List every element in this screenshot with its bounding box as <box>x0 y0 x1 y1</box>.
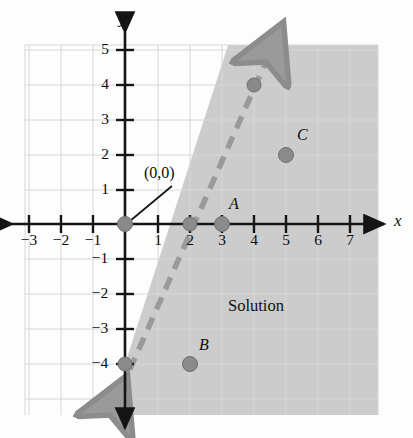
graph-figure: y x −3 −2 −1 1 2 3 4 5 6 7 5 4 3 2 1 −1 … <box>0 0 413 438</box>
x-tick-label-1: 1 <box>151 231 165 249</box>
y-tick-label-3: 3 <box>97 110 113 128</box>
y-tick-label-4: 4 <box>97 75 113 93</box>
origin-leader-line <box>130 186 172 221</box>
point-A <box>215 217 230 232</box>
coordinate-plane-svg <box>0 0 413 438</box>
x-tick-label-6: 6 <box>311 231 325 249</box>
y-tick-label--3: −3 <box>88 319 112 337</box>
y-tick-label--2: −2 <box>88 284 112 302</box>
x-tick-label--2: −2 <box>51 231 71 249</box>
point-label-A: A <box>229 195 239 213</box>
x-tick-label-3: 3 <box>215 231 229 249</box>
solution-region-label: Solution <box>228 296 284 316</box>
y-axis-label: y <box>119 8 127 28</box>
y-tick-label-2: 2 <box>97 145 113 163</box>
y-tick-label--4: −4 <box>88 354 112 372</box>
x-tick-label--3: −3 <box>19 231 39 249</box>
point-origin <box>118 217 133 232</box>
x-tick-label-5: 5 <box>279 231 293 249</box>
point-boundary-2-0 <box>183 217 197 231</box>
x-tick-label--1: −1 <box>83 231 103 249</box>
y-tick-label-1: 1 <box>97 180 113 198</box>
point-boundary-0-neg4 <box>118 357 132 371</box>
y-tick-label--1: −1 <box>88 249 112 267</box>
x-tick-label-2: 2 <box>183 231 197 249</box>
point-C <box>279 148 294 163</box>
point-label-C: C <box>297 126 308 144</box>
y-tick-label-5: 5 <box>97 40 113 58</box>
x-tick-label-4: 4 <box>247 231 261 249</box>
x-tick-label-7: 7 <box>343 231 357 249</box>
origin-annotation-label: (0,0) <box>144 164 175 182</box>
solution-shaded-region <box>125 0 378 415</box>
x-axis-label: x <box>394 211 402 231</box>
point-label-B: B <box>199 336 209 354</box>
point-B <box>183 357 198 372</box>
point-boundary-4-4 <box>247 78 261 92</box>
